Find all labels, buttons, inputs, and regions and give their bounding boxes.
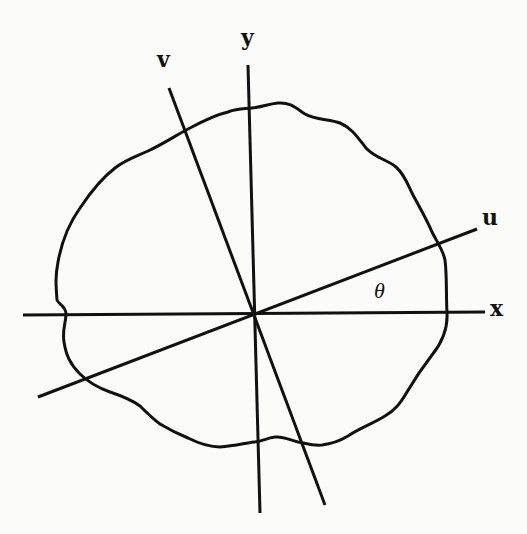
- coordinate-diagram: [0, 0, 527, 534]
- y-axis-label: y: [241, 26, 254, 48]
- figure-page: y v u x θ: [0, 0, 527, 534]
- u-axis-label: u: [482, 206, 498, 228]
- theta-angle-label: θ: [374, 280, 385, 302]
- v-axis-label: v: [157, 48, 170, 70]
- y-axis-line: [248, 65, 260, 513]
- x-axis-label: x: [490, 297, 503, 319]
